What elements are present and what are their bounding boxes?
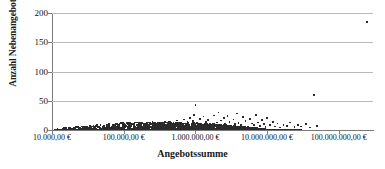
data-point xyxy=(182,123,184,125)
data-point xyxy=(210,123,212,125)
data-point xyxy=(286,125,288,127)
data-point xyxy=(227,115,229,117)
data-point xyxy=(236,113,238,115)
data-point xyxy=(213,115,215,117)
data-point xyxy=(245,120,247,122)
data-point xyxy=(220,127,222,129)
data-point xyxy=(124,126,126,128)
data-point xyxy=(175,122,177,124)
data-point xyxy=(230,125,232,127)
data-point xyxy=(222,125,224,127)
data-point xyxy=(127,123,129,125)
data-point xyxy=(133,123,135,125)
data-point xyxy=(178,127,180,129)
data-point xyxy=(118,127,120,129)
data-point xyxy=(261,119,263,121)
data-point xyxy=(86,126,88,128)
data-point xyxy=(159,123,161,125)
x-tick-label: 100.000,00 € xyxy=(103,133,145,143)
data-point xyxy=(194,124,196,126)
y-tick-mark xyxy=(48,101,52,102)
data-point xyxy=(249,118,251,120)
x-axis-tick-labels: 10.000,00 €100.000,00 €1.000.000,00 €10.… xyxy=(0,133,385,145)
data-point xyxy=(272,121,274,123)
data-point xyxy=(195,125,197,127)
gridline-y xyxy=(52,101,373,102)
data-point xyxy=(121,127,123,129)
data-point xyxy=(283,124,285,126)
data-point xyxy=(76,127,78,129)
data-point xyxy=(269,124,271,126)
data-point xyxy=(289,122,291,124)
data-point xyxy=(218,112,220,114)
y-tick-label: 200 xyxy=(35,9,49,18)
data-point xyxy=(220,120,222,122)
data-point xyxy=(199,118,201,120)
data-point xyxy=(189,117,191,119)
data-point xyxy=(259,125,261,127)
data-point xyxy=(204,127,206,129)
data-point xyxy=(108,126,110,128)
data-point xyxy=(203,116,205,118)
data-point xyxy=(89,125,91,127)
data-point xyxy=(170,122,172,124)
data-point xyxy=(184,123,186,125)
data-point xyxy=(141,122,143,124)
data-point xyxy=(300,126,302,128)
data-point xyxy=(104,127,106,129)
data-point xyxy=(193,114,195,116)
gridline-y xyxy=(52,13,373,14)
x-tick-label: 100.000.000,00 € xyxy=(311,133,367,143)
data-point xyxy=(115,123,117,125)
gridline-y xyxy=(52,42,373,43)
data-point xyxy=(199,124,201,126)
data-point xyxy=(149,122,151,124)
y-axis-tick-labels: 050100150200 xyxy=(0,13,48,130)
x-tick-label: 10.000.000,00 € xyxy=(241,133,293,143)
data-point xyxy=(266,117,268,119)
data-point xyxy=(227,126,229,128)
x-tick-label: 10.000,00 € xyxy=(33,133,71,143)
data-point xyxy=(263,123,265,125)
y-tick-mark xyxy=(48,72,52,73)
gridline-y xyxy=(52,72,373,73)
data-point xyxy=(195,104,197,106)
data-point xyxy=(122,123,124,125)
data-point xyxy=(192,126,194,128)
y-tick-label: 50 xyxy=(39,96,48,105)
data-point xyxy=(187,126,189,128)
x-tick-label: 1.000.000,00 € xyxy=(171,133,219,143)
data-point xyxy=(173,127,175,129)
data-point xyxy=(152,122,154,124)
data-point xyxy=(198,127,200,129)
data-point xyxy=(255,114,257,116)
data-point xyxy=(257,122,259,124)
data-point xyxy=(223,117,225,119)
data-point xyxy=(131,123,133,125)
data-point xyxy=(274,126,276,128)
data-point xyxy=(196,122,198,124)
scatter-chart: Anzahl Nebenangebote 050100150200 10.000… xyxy=(0,0,385,169)
data-point xyxy=(309,127,311,129)
y-tick-mark xyxy=(48,13,52,14)
data-point xyxy=(305,123,307,125)
data-point xyxy=(366,21,368,23)
data-point xyxy=(207,126,209,128)
data-point xyxy=(207,119,209,121)
data-point xyxy=(233,119,235,121)
data-point xyxy=(183,119,185,121)
data-point xyxy=(313,94,315,96)
data-point xyxy=(316,125,318,127)
data-point xyxy=(242,116,244,118)
data-point xyxy=(134,122,136,124)
data-point xyxy=(277,123,279,125)
plot-area xyxy=(52,13,373,130)
data-point xyxy=(153,126,155,128)
x-axis-title: Angebotssumme xyxy=(0,148,385,159)
data-point xyxy=(242,127,244,129)
x-axis-line xyxy=(52,130,374,131)
data-point xyxy=(163,122,165,124)
data-point xyxy=(204,123,206,125)
data-point xyxy=(297,124,299,126)
data-point xyxy=(187,122,189,124)
